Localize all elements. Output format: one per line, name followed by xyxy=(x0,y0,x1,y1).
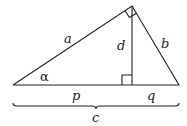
label-d: d xyxy=(117,38,125,53)
right-triangle-diagram: a b d α p q c xyxy=(0,0,187,126)
triangle-outline xyxy=(13,6,179,85)
label-p: p xyxy=(72,88,81,103)
right-angle-marker-foot xyxy=(122,75,132,85)
label-q: q xyxy=(147,88,155,103)
label-b: b xyxy=(161,36,169,51)
brace-c xyxy=(13,103,179,109)
label-alpha: α xyxy=(40,69,49,84)
label-a: a xyxy=(64,31,72,46)
label-c: c xyxy=(92,110,100,125)
